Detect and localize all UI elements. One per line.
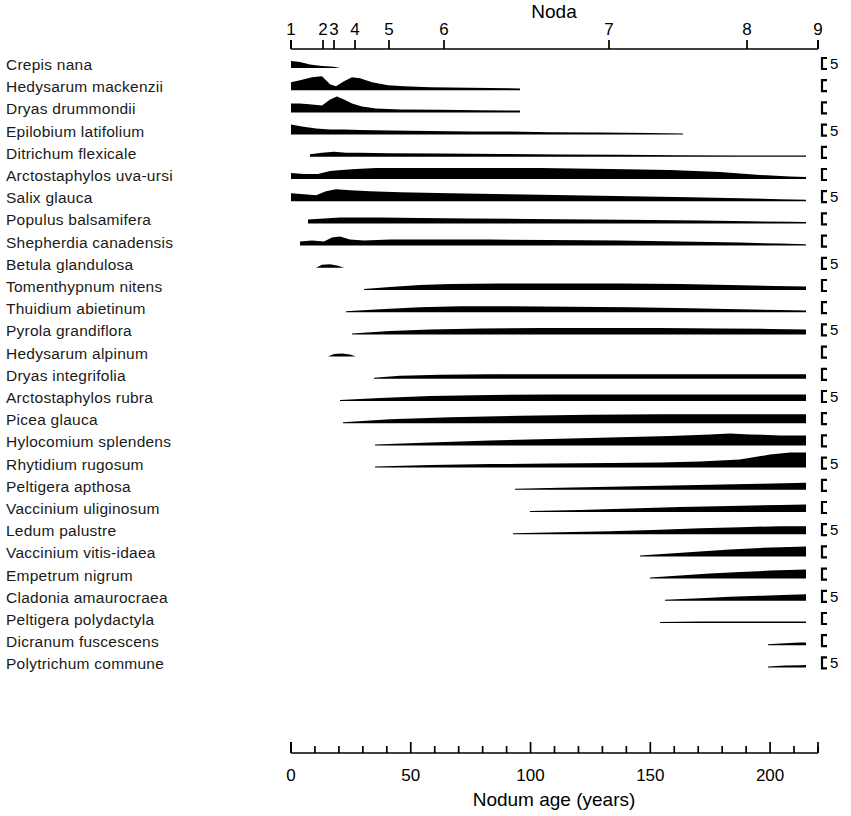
species-abundance-band	[308, 217, 806, 223]
species-label-list: Crepis nanaHedysarum mackenziiDryas drum…	[6, 56, 173, 672]
top-axis-tick-label-4: 4	[350, 20, 359, 39]
species-label: Peltigera apthosa	[6, 478, 131, 495]
species-abundance-band	[650, 570, 806, 579]
species-label: Thuidium abietinum	[6, 300, 146, 317]
row-bracket-marker	[822, 458, 827, 469]
row-bracket-marker	[822, 58, 827, 69]
row-bracket-marker	[822, 569, 827, 580]
row-bracket-marker	[822, 236, 827, 247]
row-bracket-marker	[822, 546, 827, 557]
species-label: Empetrum nigrum	[6, 567, 133, 584]
top-axis-tick-label-5: 5	[384, 20, 393, 39]
top-axis-tick-label-7: 7	[604, 20, 613, 39]
row-bracket-marker	[822, 80, 827, 91]
species-abundance-band	[300, 237, 806, 246]
species-label: Crepis nana	[6, 56, 92, 73]
row-bracket-marker	[822, 435, 827, 446]
row-bracket-marker	[822, 347, 827, 358]
species-label: Rhytidium rugosum	[6, 456, 144, 473]
species-abundance-band	[640, 546, 806, 556]
species-abundance-band	[530, 505, 806, 513]
row-bracket-marker	[822, 258, 827, 269]
row-bracket-count: 5	[830, 321, 838, 338]
species-label: Dicranum fuscescens	[6, 633, 159, 650]
row-bracket-marker	[822, 480, 827, 491]
species-label: Ditrichum flexicale	[6, 145, 137, 162]
species-label: Salix glauca	[6, 189, 93, 206]
bottom-axis-tick-label-0: 0	[286, 766, 295, 785]
top-axis-tick-label-2: 2	[318, 20, 327, 39]
row-bracket-count: 5	[830, 654, 838, 671]
species-abundance-band	[364, 284, 806, 291]
species-label: Shepherdia canadensis	[6, 234, 173, 251]
top-axis-title: Noda	[531, 1, 577, 22]
top-axis-tick-label-8: 8	[742, 20, 751, 39]
species-abundance-band	[660, 621, 806, 623]
row-bracket-marker	[822, 657, 827, 668]
row-bracket-marker	[822, 524, 827, 535]
row-bracket-marker	[822, 169, 827, 180]
species-abundance-band	[291, 61, 340, 68]
row-bracket-marker	[822, 591, 827, 602]
species-label: Polytrichum commune	[6, 655, 164, 672]
row-bracket-marker	[822, 147, 827, 158]
top-axis-tick-label-1: 1	[286, 20, 295, 39]
species-abundance-band	[375, 453, 806, 468]
bottom-axis-tick-label-50: 50	[401, 766, 420, 785]
row-bracket-marker	[822, 369, 827, 380]
species-label: Ledum palustre	[6, 522, 116, 539]
right-bracket-markers: 5555555555	[822, 55, 838, 671]
row-bracket-marker	[822, 213, 827, 224]
species-abundance-band	[665, 594, 806, 601]
row-bracket-marker	[822, 125, 827, 136]
row-bracket-count: 5	[830, 521, 838, 538]
row-bracket-marker	[822, 102, 827, 113]
bottom-axis-tick-labels: 050100150200	[286, 766, 784, 785]
species-abundance-band	[291, 168, 806, 179]
species-abundance-band	[375, 433, 806, 445]
species-abundance-band	[346, 306, 806, 312]
species-label: Vaccinium vitis-idaea	[6, 544, 156, 561]
species-abundance-band	[291, 76, 520, 90]
top-axis-tick-labels: 123456789	[286, 20, 822, 39]
species-abundance-band	[291, 96, 520, 112]
top-axis-tick-label-9: 9	[813, 20, 822, 39]
row-bracket-marker	[822, 502, 827, 513]
species-abundance-band	[343, 414, 806, 423]
species-label: Picea glauca	[6, 411, 98, 428]
species-label: Pyrola grandiflora	[6, 322, 132, 339]
row-bracket-marker	[822, 613, 827, 624]
row-bracket-marker	[822, 413, 827, 424]
row-bracket-marker	[822, 324, 827, 335]
kite-diagram-figure: Noda 123456789 Crepis nanaHedysarum mack…	[0, 0, 851, 816]
row-bracket-count: 5	[830, 255, 838, 272]
species-abundance-band	[310, 152, 806, 157]
species-label: Betula glandulosa	[6, 256, 134, 273]
bottom-axis-tick-label-200: 200	[756, 766, 784, 785]
bottom-axis: 050100150200 Nodum age (years)	[286, 742, 818, 810]
species-abundance-band	[768, 642, 806, 645]
row-bracket-count: 5	[830, 55, 838, 72]
row-bracket-marker	[822, 302, 827, 313]
row-bracket-count: 5	[830, 188, 838, 205]
species-label: Peltigera polydactyla	[6, 611, 154, 628]
species-label: Dryas drummondii	[6, 100, 136, 117]
bottom-axis-title: Nodum age (years)	[473, 789, 636, 810]
species-abundance-band	[291, 189, 806, 201]
species-abundance-band	[768, 665, 806, 667]
species-abundance-band	[291, 125, 683, 135]
species-abundance-band	[352, 328, 806, 335]
row-bracket-marker	[822, 191, 827, 202]
kite-bands-group	[291, 61, 806, 667]
row-bracket-count: 5	[830, 122, 838, 139]
species-label: Hedysarum alpinum	[6, 345, 148, 362]
species-label: Arctostaphylos rubra	[6, 389, 153, 406]
top-axis-tick-label-6: 6	[439, 20, 448, 39]
species-label: Hylocomium splendens	[6, 433, 171, 450]
species-abundance-band	[328, 354, 356, 357]
row-bracket-count: 5	[830, 455, 838, 472]
species-label: Arctostaphylos uva-ursi	[6, 167, 173, 184]
species-abundance-band	[374, 374, 806, 379]
row-bracket-marker	[822, 280, 827, 291]
species-label: Tomenthypnum nitens	[6, 278, 162, 295]
